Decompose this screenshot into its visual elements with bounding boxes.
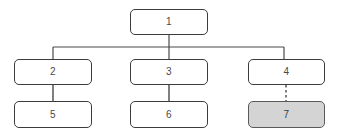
node-2[interactable]: 2 bbox=[14, 59, 92, 85]
node-5-label: 5 bbox=[50, 110, 56, 120]
node-1-label: 1 bbox=[166, 17, 172, 27]
node-4-label: 4 bbox=[284, 67, 290, 77]
node-6[interactable]: 6 bbox=[130, 101, 208, 128]
node-6-label: 6 bbox=[166, 110, 172, 120]
node-7-label: 7 bbox=[284, 110, 290, 120]
node-3-label: 3 bbox=[166, 67, 172, 77]
node-7[interactable]: 7 bbox=[248, 101, 325, 128]
node-1[interactable]: 1 bbox=[130, 9, 208, 35]
node-2-label: 2 bbox=[50, 67, 56, 77]
node-4[interactable]: 4 bbox=[248, 59, 325, 85]
tree-diagram: 1 2 3 4 5 6 7 bbox=[0, 0, 339, 139]
node-5[interactable]: 5 bbox=[14, 101, 92, 128]
node-3[interactable]: 3 bbox=[130, 59, 208, 85]
